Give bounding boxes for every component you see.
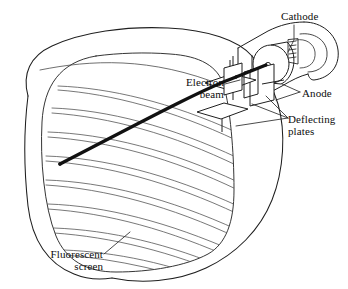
leader-deflecting-b xyxy=(252,104,288,118)
label-cathode: Cathode xyxy=(281,11,318,23)
label-fluorescent-screen-line1: Fluorescent xyxy=(23,249,103,261)
label-electron-beam-line1: Electron xyxy=(172,77,224,89)
label-deflecting-plates-line1: Deflecting xyxy=(288,114,346,126)
neck-end-cap-inner xyxy=(300,34,327,72)
label-electron-beam-line2: beam xyxy=(172,89,224,101)
leader-deflecting-c xyxy=(236,118,288,126)
deflecting-plate-lower-horizontal xyxy=(197,103,248,119)
label-electron-beam: Electron beam xyxy=(172,77,224,100)
crt-diagram-figure: Cathode Anode Electron beam Deflecting p… xyxy=(0,0,348,289)
label-anode: Anode xyxy=(302,88,332,100)
label-deflecting-plates-line2: plates xyxy=(288,126,346,138)
beam-spot xyxy=(58,162,62,166)
label-fluorescent-screen-line2: screen xyxy=(23,261,103,273)
neck-end-cap-inner2 xyxy=(296,40,315,68)
leader-anode-b xyxy=(276,92,300,100)
neck-end-cap-outer xyxy=(304,22,338,80)
crt-diagram-svg xyxy=(0,0,348,289)
leader-anode-a xyxy=(282,84,300,92)
label-fluorescent-screen: Fluorescent screen xyxy=(23,249,103,272)
label-deflecting-plates: Deflecting plates xyxy=(288,114,346,137)
